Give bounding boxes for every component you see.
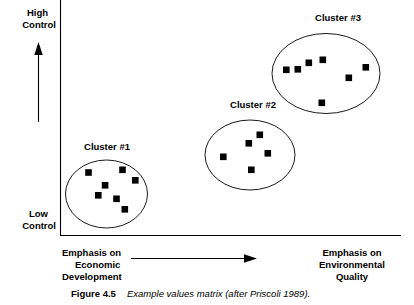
x-axis-left-label-line3: Development: [62, 271, 122, 282]
data-marker: [122, 206, 129, 213]
data-marker: [346, 75, 353, 82]
x-axis-right-label-line2: Environmental: [319, 259, 385, 270]
cluster-1-ellipse: [66, 160, 148, 228]
cluster-1-label: Cluster #1: [84, 141, 131, 152]
data-marker: [319, 100, 326, 107]
cluster-2-ellipse: [205, 120, 295, 190]
data-marker: [248, 167, 255, 174]
data-marker: [320, 57, 327, 64]
y-axis-high-label-line1: High: [27, 7, 48, 18]
data-marker: [363, 64, 370, 71]
cluster-group-3[interactable]: Cluster #3: [272, 12, 380, 114]
cluster-2-label: Cluster #2: [230, 99, 276, 110]
data-marker: [113, 196, 120, 203]
data-marker: [119, 167, 126, 174]
x-axis-right-label-line3: Quality: [336, 271, 369, 282]
data-marker: [95, 192, 102, 199]
cluster-1-points: [85, 167, 138, 213]
figure-caption: Figure 4.5 Example values matrix (after …: [71, 288, 310, 299]
data-marker: [306, 60, 313, 67]
x-axis-left-label-line2: Economic: [75, 259, 120, 270]
data-marker: [257, 132, 264, 139]
data-marker: [85, 169, 92, 176]
values-matrix-chart: High Control Low Control Emphasis on Eco…: [0, 0, 414, 305]
cluster-2-points: [220, 132, 271, 174]
y-axis-low-label-line2: Control: [22, 220, 56, 231]
cluster-group-1[interactable]: Cluster #1: [66, 141, 148, 228]
cluster-group-2[interactable]: Cluster #2: [205, 99, 295, 190]
y-axis-low-label-line1: Low: [29, 208, 49, 219]
x-axis-right-label-line1: Emphasis on: [322, 247, 381, 258]
y-axis-high-label-line2: Control: [22, 19, 56, 30]
data-marker: [220, 154, 227, 161]
data-marker: [265, 150, 272, 157]
figure-container: High Control Low Control Emphasis on Eco…: [0, 0, 414, 305]
figure-caption-label: Figure 4.5: [71, 288, 117, 299]
data-marker: [132, 177, 139, 184]
data-marker: [102, 182, 109, 189]
cluster-3-points: [283, 57, 369, 107]
data-marker: [246, 140, 253, 147]
cluster-3-label: Cluster #3: [315, 12, 361, 23]
data-marker: [295, 66, 302, 73]
x-axis-direction-arrow: [131, 254, 257, 262]
y-axis-direction-arrow: [34, 42, 42, 122]
x-axis-left-label-line1: Emphasis on: [62, 247, 121, 258]
figure-caption-text: Example values matrix (after Priscoli 19…: [127, 288, 310, 299]
cluster-3-ellipse: [272, 34, 380, 114]
data-marker: [283, 67, 290, 74]
